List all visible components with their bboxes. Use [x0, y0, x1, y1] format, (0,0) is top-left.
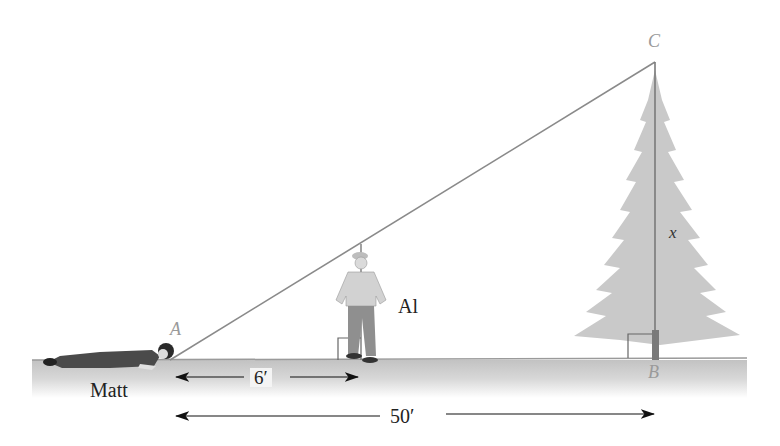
- measurement-50ft: 50′: [384, 406, 420, 426]
- measurement-6ft: 6′: [250, 368, 272, 387]
- point-a-label: A: [170, 320, 181, 338]
- unknown-height-label: x: [669, 224, 677, 241]
- al-label: Al: [398, 296, 418, 316]
- matt-label: Matt: [90, 380, 128, 400]
- point-c-label: C: [648, 32, 660, 50]
- point-b-label: B: [648, 363, 659, 381]
- matt-figure: [43, 343, 174, 370]
- tree: [574, 70, 740, 360]
